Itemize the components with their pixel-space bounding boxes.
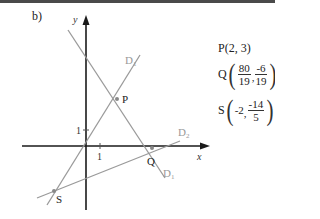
x-tick-label: 1 bbox=[97, 151, 102, 162]
line-label-upper: D1 bbox=[125, 54, 137, 68]
right-paren: ) bbox=[267, 95, 274, 125]
comma: , bbox=[244, 107, 247, 119]
q-x-numerator: 80 bbox=[238, 62, 251, 75]
figure-label: b) bbox=[32, 9, 42, 23]
coord-s-y: -145 bbox=[248, 98, 265, 123]
q-y-numerator: -6 bbox=[255, 62, 266, 75]
left-paren: ( bbox=[228, 59, 235, 89]
y-axis-label: y bbox=[72, 14, 78, 25]
q-y-denominator: 19 bbox=[256, 75, 267, 87]
coord-s-x: -2 bbox=[235, 104, 244, 116]
x-axis-arrow-icon bbox=[200, 143, 210, 150]
coord-q-name: Q bbox=[218, 67, 227, 82]
y-axis-arrow-icon bbox=[83, 15, 90, 25]
coord-p: P(2, 3) bbox=[218, 40, 275, 57]
left-paren: ( bbox=[226, 95, 233, 125]
y-tick-label: 1 bbox=[76, 125, 81, 136]
right-paren: ) bbox=[269, 59, 275, 89]
s-y-denominator: 5 bbox=[253, 111, 259, 123]
coord-q-y: -619 bbox=[255, 62, 266, 87]
line-d3 bbox=[47, 55, 140, 205]
point-s-label: S bbox=[56, 193, 62, 205]
comma: , bbox=[252, 71, 255, 83]
point-p-label: P bbox=[122, 93, 128, 105]
coord-s: S ( -2 , -145 ) bbox=[218, 95, 275, 125]
coord-p-value: (2, 3) bbox=[225, 41, 251, 56]
point-p bbox=[115, 97, 119, 101]
s-y-numerator: -14 bbox=[248, 98, 265, 111]
coord-q: Q ( 8019 , -619 ) bbox=[218, 59, 275, 89]
coordinate-list: P(2, 3) Q ( 8019 , -619 ) S ( -2 , -145 … bbox=[218, 40, 275, 125]
coord-p-name: P bbox=[218, 41, 225, 56]
coord-s-name: S bbox=[218, 103, 225, 118]
line-label-d1: D1 bbox=[163, 167, 175, 181]
x-axis-label: x bbox=[196, 151, 202, 162]
line-d2 bbox=[37, 141, 180, 198]
q-x-denominator: 19 bbox=[239, 75, 250, 87]
line-label-d2: D2 bbox=[178, 126, 190, 140]
point-q-label: Q bbox=[147, 155, 155, 167]
coord-q-x: 8019 bbox=[238, 62, 251, 87]
point-q bbox=[150, 146, 154, 150]
